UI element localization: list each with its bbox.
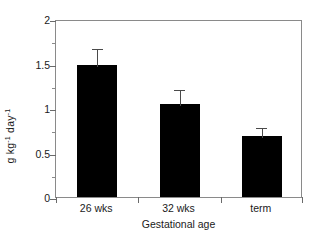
y-axis-tick-minor [52, 132, 56, 133]
y-axis-tick-label: 2 [22, 15, 50, 25]
y-axis-title-text: g kg-1 day-1 [4, 109, 16, 164]
y-axis-tick-label: 0.5 [22, 149, 50, 159]
y-axis-tick-minor [52, 177, 56, 178]
y-axis-tick-minor [52, 43, 56, 44]
error-bar-cap [174, 90, 185, 91]
bar [160, 104, 200, 197]
y-axis-tick-label: 1 [22, 104, 50, 114]
bar [77, 65, 117, 197]
y-axis-title-sup-2: -1 [4, 109, 12, 116]
y-axis-tick-major [50, 110, 56, 111]
x-axis-tick-labels: 26 wks32 wksterm [55, 201, 302, 217]
x-axis-tick [302, 197, 303, 203]
y-axis-tick-label: 1.5 [22, 60, 50, 70]
y-axis-title-sup-1: -1 [4, 136, 12, 143]
error-bar-stem [262, 128, 263, 139]
y-axis-tick-major [50, 155, 56, 156]
y-axis-tick-labels: 00.511.52 [22, 0, 50, 238]
x-axis-tick-label: 32 wks [137, 201, 219, 215]
y-axis-tick-major [50, 66, 56, 67]
y-axis-tick-label: 0 [22, 193, 50, 203]
bar [242, 136, 282, 197]
error-bar-stem [97, 49, 98, 68]
y-axis-tick-major [50, 21, 56, 22]
x-axis-tick-label: 26 wks [55, 201, 137, 215]
bar-chart-figure: g kg-1 day-1 00.511.52 26 wks32 wksterm … [0, 0, 313, 238]
error-bar-cap [92, 49, 103, 50]
y-axis-tick-minor [52, 88, 56, 89]
error-bar-cap [256, 128, 267, 129]
x-axis-title: Gestational age [55, 217, 302, 231]
x-axis-tick-label: term [220, 201, 302, 215]
plot-area [55, 20, 302, 198]
error-bar-stem [180, 90, 181, 107]
y-axis-title: g kg-1 day-1 [0, 0, 20, 238]
